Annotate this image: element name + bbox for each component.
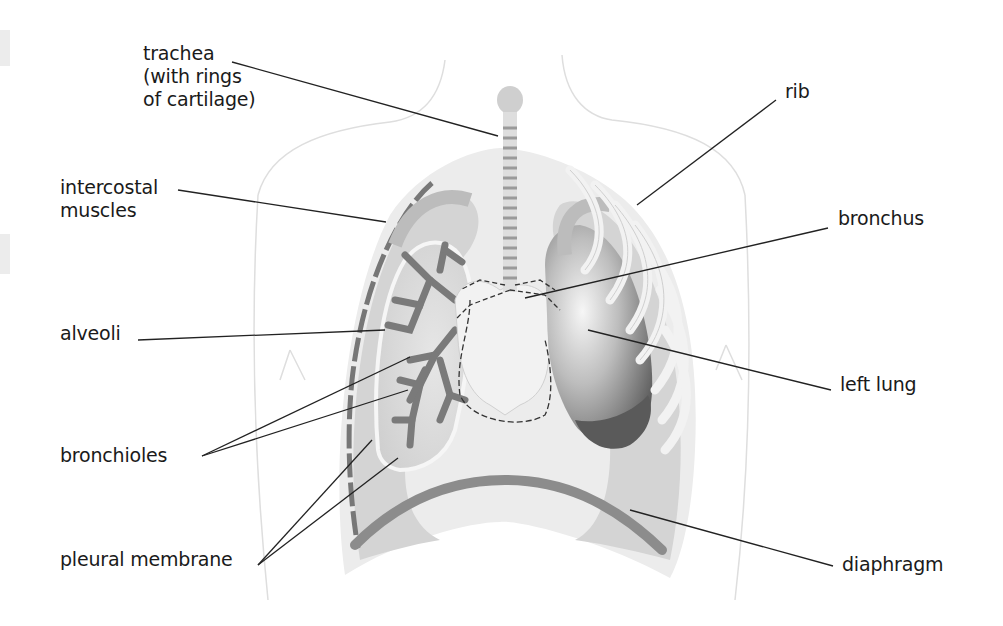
label-bronchioles: bronchioles — [60, 444, 167, 467]
label-diaphragm: diaphragm — [842, 553, 943, 576]
label-trachea: trachea (with rings of cartilage) — [143, 42, 255, 111]
label-alveoli: alveoli — [60, 322, 121, 345]
label-intercostal-muscles: intercostal muscles — [60, 176, 158, 222]
label-rib: rib — [785, 80, 810, 103]
label-left-lung: left lung — [840, 373, 916, 396]
respiratory-diagram: trachea (with rings of cartilage) interc… — [0, 0, 1003, 626]
label-pleural-membrane: pleural membrane — [60, 548, 233, 571]
label-bronchus: bronchus — [838, 207, 924, 230]
